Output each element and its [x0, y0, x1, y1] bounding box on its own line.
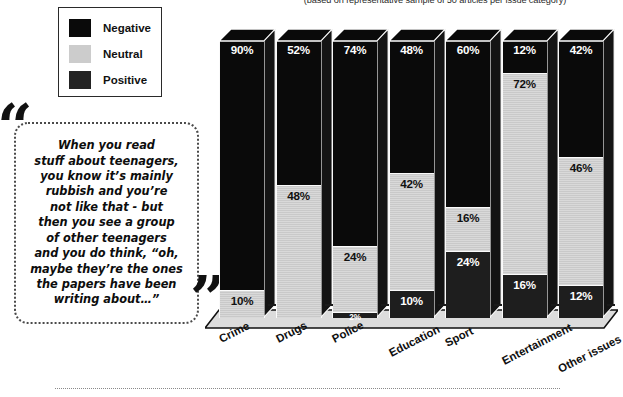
baseline-tick: [268, 304, 276, 306]
segment-value-label: 48%: [400, 40, 423, 56]
bar-stack: 74%24%2%: [332, 40, 378, 318]
segment-value-label: 42%: [570, 40, 593, 56]
bar-stack: 12%72%16%: [502, 40, 548, 318]
baseline-tick: [607, 304, 615, 306]
segment-value-label: 48%: [287, 186, 310, 202]
bar-stack: 52%48%: [276, 40, 322, 318]
baseline-tick: [325, 304, 333, 306]
square-swatch-icon: [69, 45, 91, 63]
bar-segment-positive: 10%: [389, 290, 435, 318]
baseline-tick: [381, 304, 389, 306]
bottom-divider: [55, 388, 560, 389]
bar-segment-neutral: 46%: [558, 157, 604, 285]
legend-item-label: Negative: [103, 22, 151, 34]
bar-sport[interactable]: 60%16%24%: [445, 40, 491, 318]
bar-segment-positive: 24%: [445, 251, 491, 318]
segment-value-label: 52%: [287, 40, 310, 56]
baseline-tick: [438, 304, 446, 306]
stacked-bar-chart: 90%10%52%48%74%24%2%48%42%10%60%16%24%12…: [205, 8, 618, 328]
bar-entertainment[interactable]: 12%72%16%: [502, 40, 548, 318]
segment-value-label: 42%: [400, 174, 423, 190]
bar-segment-negative: 52%: [276, 40, 322, 185]
square-swatch-icon: [69, 71, 91, 89]
legend-item-label: Neutral: [103, 48, 143, 60]
bar-segment-negative: 74%: [332, 40, 378, 246]
legend-item-positive: Positive: [65, 67, 155, 93]
bar-stack: 60%16%24%: [445, 40, 491, 318]
bar-other-issues[interactable]: 42%46%12%: [558, 40, 604, 318]
segment-value-label: 16%: [457, 208, 480, 224]
bar-segment-neutral: 24%: [332, 246, 378, 313]
segment-value-label: 74%: [344, 40, 367, 56]
quote-text: When you read stuff about teenagers, you…: [30, 138, 183, 307]
bar-segment-neutral: 10%: [219, 290, 265, 318]
segment-value-label: 10%: [400, 291, 423, 307]
x-axis-label-other-issues: Other issues: [556, 333, 623, 375]
legend-item-negative: Negative: [65, 15, 155, 41]
chart-legend: Negative Neutral Positive: [58, 7, 162, 97]
segment-value-label: 12%: [513, 40, 536, 56]
bar-crime[interactable]: 90%10%: [219, 40, 265, 318]
segment-value-label: 90%: [231, 40, 254, 56]
bar-segment-positive: 2%: [332, 312, 378, 318]
segment-value-label: 10%: [231, 291, 254, 307]
bar-education[interactable]: 48%42%10%: [389, 40, 435, 318]
bar-segment-positive: 12%: [558, 285, 604, 318]
bar-segment-negative: 90%: [219, 40, 265, 290]
bar-drugs[interactable]: 52%48%: [276, 40, 322, 318]
bar-police[interactable]: 74%24%2%: [332, 40, 378, 318]
chart-subtitle: (based on representative sample of 50 ar…: [255, 0, 615, 5]
bar-stack: 42%46%12%: [558, 40, 604, 318]
baseline-tick: [494, 304, 502, 306]
segment-value-label: 12%: [570, 286, 593, 302]
segment-value-label: 72%: [513, 74, 536, 90]
bar-segment-negative: 48%: [389, 40, 435, 173]
legend-item-neutral: Neutral: [65, 41, 155, 67]
bar-stack: 90%10%: [219, 40, 265, 318]
bar-segment-neutral: 48%: [276, 185, 322, 318]
bar-segment-neutral: 16%: [445, 207, 491, 251]
bar-stack: 48%42%10%: [389, 40, 435, 318]
quote-callout: When you read stuff about teenagers, you…: [14, 122, 199, 324]
bar-segment-negative: 60%: [445, 40, 491, 207]
legend-item-label: Positive: [103, 74, 147, 86]
bar-segment-neutral: 42%: [389, 173, 435, 290]
bar-segment-neutral: 72%: [502, 73, 548, 273]
bar-segment-positive: 16%: [502, 274, 548, 318]
segment-value-label: 24%: [344, 247, 367, 263]
segment-value-label: 16%: [513, 275, 536, 291]
segment-value-label: 24%: [457, 252, 480, 268]
baseline-tick: [551, 304, 559, 306]
bar-segment-negative: 12%: [502, 40, 548, 73]
segment-value-label: 46%: [570, 158, 593, 174]
segment-value-label: 60%: [457, 40, 480, 56]
bar-segment-negative: 42%: [558, 40, 604, 157]
bar-side-face: [603, 28, 616, 318]
square-swatch-icon: [69, 19, 91, 37]
